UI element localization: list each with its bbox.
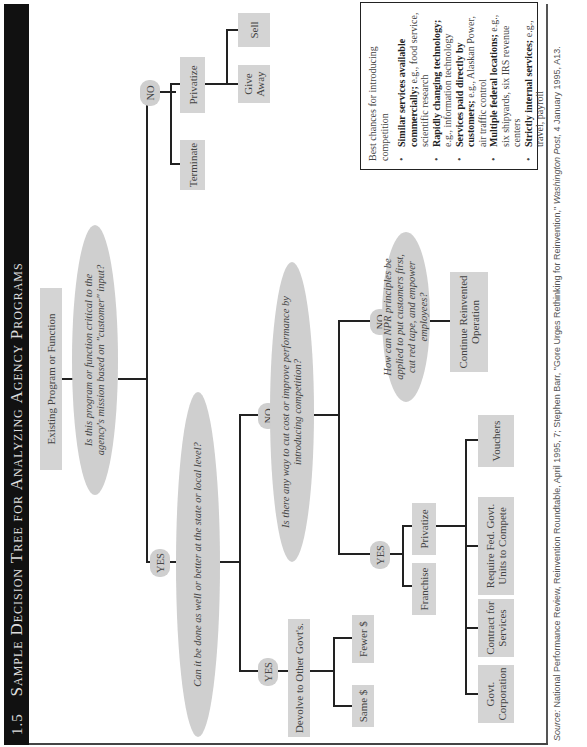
connector [118,379,147,381]
node-same-dollars: Same $ [352,685,374,727]
connector [465,441,467,695]
connector [465,694,479,696]
question-npr-principles: How can NPR principles be applied to put… [382,232,430,402]
question-state-local-level: Can it be done as well or better at the … [176,392,220,737]
connector [402,527,404,587]
label-q3-yes: YES [370,541,390,569]
figure-title-bar: 1.5 Sample Decision Tree for Analyzing A… [4,4,29,745]
note-list: Similar services available commercially;… [396,11,546,161]
node-privatize-bottom: Privatize [412,503,436,555]
connector [338,322,340,555]
connector [465,440,479,442]
node-sell: Sell [238,13,270,47]
node-privatize-top: Privatize [180,57,205,113]
connector [465,628,479,630]
note-item: Strictly internal services; e.g., travel… [523,11,546,151]
node-require-fed-compete: Require Fed. Govt. Units to Compete [478,497,514,595]
connector [333,638,353,640]
question-critical-mission: Is this program or function critical to … [72,225,118,495]
connector [430,321,450,323]
frame-side-rule [29,743,548,745]
connector [436,526,466,528]
competition-chances-note: Best chances for introducing competition… [360,2,538,170]
note-item: Multiple federal locations; e.g., six sh… [488,11,523,151]
node-govt-corporation: Govt. Corporation [478,665,514,723]
note-item: Rapidly changing technology; e.g., infor… [431,11,454,151]
rotated-page: 1.5 Sample Decision Tree for Analyzing A… [0,0,587,747]
node-vouchers: Vouchers [478,415,514,467]
connector [226,84,238,86]
note-heading: Best chances for introducing competition [367,11,390,161]
node-devolve: Devolve to Other Govt's. [288,619,310,737]
question-competition: Is there any way to cut cost or improve … [270,262,314,562]
connector [170,85,172,165]
note-item: Services paid directly by customers; e.g… [454,11,489,151]
connector [226,31,228,85]
connector [146,93,148,563]
connector [205,84,227,86]
connector [465,546,479,548]
node-existing-program: Existing Program or Function [40,288,62,470]
node-continue-reinvented: Continue Reinvented Operation [450,272,488,372]
connector [226,30,238,32]
connector [314,415,338,417]
connector [310,671,334,673]
source-citation: Source: National Performance Review, Rei… [552,3,562,741]
label-q1-no: NO [140,80,160,106]
label-q2-yes: YES [258,658,278,686]
connector [333,706,353,708]
label-q1-yes: YES [150,549,170,577]
node-terminate: Terminate [180,140,205,190]
connector [220,562,240,564]
note-item: Similar services available commercially;… [396,11,431,151]
node-franchise: Franchise [412,563,436,615]
connector [239,416,241,672]
connector [390,554,402,556]
frame-bottom-rule [546,4,548,745]
figure-number: 1.5 [9,713,25,735]
node-contract-services: Contract for Services [478,599,514,657]
connector [278,671,288,673]
node-give-away: Give Away [238,65,270,103]
connector [333,639,335,707]
node-fewer-dollars: Fewer $ [352,615,374,663]
figure-title: Sample Decision Tree for Analyzing Agenc… [9,262,25,696]
